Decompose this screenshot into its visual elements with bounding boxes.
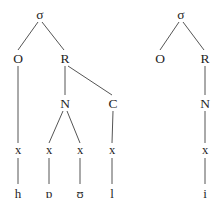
tree-node-l-seg4: l: [110, 187, 114, 200]
tree-node-l-x4: x: [109, 144, 115, 157]
tree-node-l-sigma: σ: [36, 8, 43, 21]
tree-node-l-seg3: ʊ: [76, 187, 83, 200]
tree-node-l-x3: x: [77, 144, 83, 157]
tree-node-l-x2: x: [46, 144, 52, 157]
tree-node-l-seg2: ɒ: [46, 187, 53, 200]
tree-node-l-seg1: h: [15, 187, 22, 200]
syllable-structure-diagram: σORNCxxxxhɒʊlσORNxi: [0, 0, 222, 208]
tree-edge-l-nucleus-to-l-x3: [67, 111, 80, 143]
tree-node-r-rhyme: R: [200, 52, 209, 65]
tree-edge-r-sigma-to-r-rhyme: [183, 22, 204, 50]
tree-node-l-coda: C: [108, 97, 117, 110]
tree-edge-l-sigma-to-l-rhyme: [42, 22, 64, 50]
tree-node-l-rhyme: R: [60, 52, 69, 65]
tree-node-r-sigma: σ: [177, 8, 184, 21]
tree-edge-l-coda-to-l-x4: [112, 111, 113, 143]
tree-node-r-onset: O: [155, 52, 165, 65]
tree-edge-l-sigma-to-l-onset: [18, 22, 38, 50]
tree-node-l-onset: O: [13, 52, 23, 65]
tree-edge-r-sigma-to-r-onset: [160, 22, 179, 50]
tree-node-r-x1: x: [202, 144, 208, 157]
tree-node-r-seg1: i: [203, 187, 207, 200]
tree-edge-l-nucleus-to-l-x2: [49, 111, 63, 143]
tree-node-l-nucleus: N: [60, 97, 70, 110]
tree-edge-l-rhyme-to-l-coda: [68, 66, 112, 95]
tree-node-l-x1: x: [15, 144, 21, 157]
tree-node-r-nucleus: N: [200, 97, 210, 110]
